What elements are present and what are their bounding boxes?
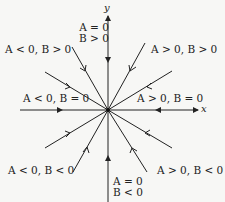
trajectory-lower-left-steep: [73, 110, 108, 172]
label-left: A < 0, B = 0: [23, 93, 89, 104]
label-upper-right: A > 0, B > 0: [151, 44, 217, 55]
origin-point: [106, 108, 110, 112]
phase-portrait-diagram: y x A = 0 B > 0 A < 0, B > 0 A > 0, B > …: [0, 0, 225, 202]
trajectory-lower-right-steep: [108, 110, 147, 172]
label-lower-right: A > 0, B < 0: [157, 165, 223, 176]
arrow-icon: [57, 107, 63, 113]
arrow-icon: [105, 57, 111, 63]
label-bottom: A = 0 B < 0: [113, 176, 143, 198]
arrow-icon: [105, 155, 111, 161]
trajectory-upper-left-shallow: [45, 72, 108, 110]
trajectory-lower-right-shallow: [108, 110, 172, 148]
trajectory-upper-right-shallow: [108, 71, 172, 110]
label-bottom-line2: B < 0: [113, 187, 143, 198]
trajectory-lower-left-shallow: [45, 110, 108, 148]
y-axis-label: y: [104, 2, 110, 13]
label-upper-left: A < 0, B > 0: [5, 44, 71, 55]
arrow-icon: [155, 107, 161, 113]
label-top: A = 0 B > 0: [79, 22, 109, 44]
label-top-line2: B > 0: [79, 33, 109, 44]
label-right: A > 0, B = 0: [137, 93, 203, 104]
label-lower-left: A < 0, B < 0: [8, 165, 74, 176]
x-axis-label: x: [201, 103, 207, 114]
